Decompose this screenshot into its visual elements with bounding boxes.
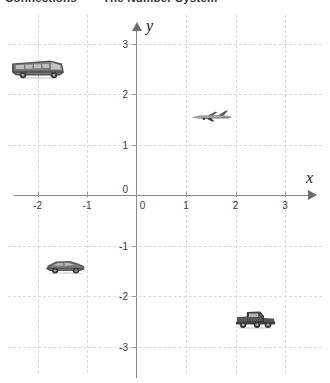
y-axis-tick: [132, 145, 137, 146]
y-axis-tick: [132, 296, 137, 297]
y-axis-tick: [132, 246, 137, 247]
y-axis-tick: [132, 347, 137, 348]
gridline-horizontal: [8, 246, 322, 247]
x-axis-tick-label: 3: [282, 200, 288, 211]
y-axis-tick-label: 0: [108, 184, 128, 195]
x-axis-label: x: [306, 169, 313, 187]
x-axis-arrow-icon: [308, 190, 317, 200]
y-axis-tick: [132, 44, 137, 45]
x-axis-tick: [87, 192, 88, 197]
x-axis-tick-label: 1: [183, 200, 189, 211]
x-axis-tick-label: -2: [33, 200, 42, 211]
x-axis-tick: [285, 192, 286, 197]
y-axis-tick-label: -2: [108, 291, 128, 302]
x-axis-tick-label: 0: [140, 200, 146, 211]
y-axis-tick-label: 3: [108, 38, 128, 49]
gridline-horizontal: [8, 296, 322, 297]
airplane-icon: [188, 110, 234, 124]
y-axis-tick-label: -1: [108, 240, 128, 251]
page-header: ConnectionsThe Number System: [0, 0, 330, 9]
truck-icon: [233, 309, 277, 329]
y-axis-tick-label: 1: [108, 139, 128, 150]
gridline-horizontal: [8, 44, 322, 45]
x-axis-tick: [186, 192, 187, 197]
car-icon: [44, 258, 86, 274]
gridline-horizontal: [8, 94, 322, 95]
y-axis-line: [136, 30, 137, 378]
x-axis-tick-label: 2: [233, 200, 239, 211]
y-axis-tick-label: -3: [108, 341, 128, 352]
y-axis-tick: [132, 94, 137, 95]
y-axis-label: y: [146, 17, 153, 35]
x-axis-tick-label: -1: [83, 200, 92, 211]
page-title-left: Connections: [5, 0, 77, 4]
gridline-horizontal: [8, 145, 322, 146]
y-axis-arrow-icon: [132, 22, 142, 31]
x-axis-tick: [236, 192, 237, 197]
x-axis-tick: [38, 192, 39, 197]
x-axis-line: [14, 195, 310, 196]
bus-icon: [10, 58, 66, 79]
gridline-horizontal: [8, 347, 322, 348]
y-axis-tick-label: 2: [108, 89, 128, 100]
coordinate-plane: -2-10123 3210-1-2-3 x y: [0, 9, 330, 383]
page-title-right: The Number System: [103, 0, 218, 4]
page-title: ConnectionsThe Number System: [5, 0, 217, 4]
